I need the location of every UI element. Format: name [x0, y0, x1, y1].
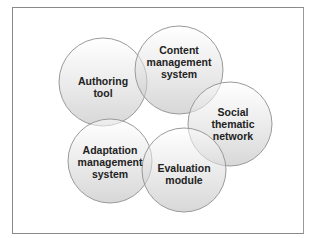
label-line: module — [157, 174, 210, 186]
label-social-thematic-network: Social thematic network — [211, 106, 254, 142]
label-line: network — [211, 130, 254, 142]
label-evaluation-module: Evaluation module — [157, 162, 210, 186]
circles-canvas — [0, 0, 311, 238]
label-line: thematic — [211, 118, 254, 130]
label-line: management — [78, 156, 143, 168]
label-line: management — [147, 56, 212, 68]
label-adaptation-management-system: Adaptation management system — [78, 144, 143, 180]
label-line: system — [147, 68, 212, 80]
label-line: Evaluation — [157, 162, 210, 174]
label-authoring-tool: Authoring tool — [78, 75, 128, 99]
label-line: Social — [211, 106, 254, 118]
label-line: Adaptation — [78, 144, 143, 156]
label-line: tool — [78, 87, 128, 99]
label-line: Authoring — [78, 75, 128, 87]
label-content-management-system: Content management system — [147, 44, 212, 80]
label-line: Content — [147, 44, 212, 56]
label-line: system — [78, 168, 143, 180]
